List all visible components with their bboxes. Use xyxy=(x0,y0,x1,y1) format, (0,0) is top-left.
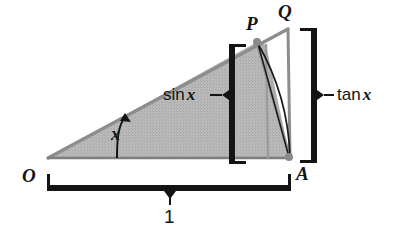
tan-variable: x xyxy=(361,85,372,104)
point-a-marker xyxy=(285,153,293,161)
sin-prefix: sin xyxy=(163,85,185,104)
diagram-canvas xyxy=(0,0,397,245)
sin-variable: x xyxy=(185,85,196,104)
angle-label-x: x xyxy=(111,125,120,143)
point-label-q: Q xyxy=(278,2,292,21)
tan-x-label: tanx xyxy=(337,86,371,103)
point-label-a: A xyxy=(296,164,309,183)
sin-x-label: sinx xyxy=(163,86,195,103)
unit-length-label: 1 xyxy=(164,207,175,226)
point-label-o: O xyxy=(22,166,36,185)
point-label-p: P xyxy=(246,14,258,33)
tan-prefix: tan xyxy=(337,85,361,104)
tan-brace xyxy=(300,28,324,163)
trigonometry-diagram: O A P Q x sinx tanx 1 xyxy=(0,0,397,245)
point-p-marker xyxy=(253,38,261,46)
unit-brace xyxy=(47,174,291,205)
